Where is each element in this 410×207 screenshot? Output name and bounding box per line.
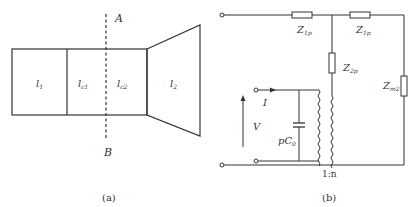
impedance-z2p [329,53,335,73]
figure-a [12,14,200,138]
horn-section [147,25,200,136]
transformer-primary-coil [318,90,320,166]
label-current: I [262,97,268,108]
impedance-z1p-right [350,12,370,18]
label-z1p-right: Z1p [355,24,371,37]
label-capacitor: pC0 [278,135,296,147]
cut-label-b: B [103,146,112,159]
label-lc2: lc2 [117,78,128,90]
label-transformer-ratio: 1:n [322,169,337,179]
label-z2p: Z2p [342,62,358,75]
transformer-secondary-coil [331,96,333,168]
label-l1: l1 [36,78,43,90]
caption-a: (a) [102,192,116,203]
terminal-bottom-left [220,163,224,167]
caption-b: (b) [322,192,336,203]
diagram-canvas: l1 lc1 lc2 l2 A B (a) [0,0,410,207]
terminal-input-top [254,88,258,92]
terminal-input-bottom [254,159,258,163]
current-arrow-icon [270,88,276,93]
label-l2: l2 [170,78,177,90]
label-lc1: lc1 [78,78,88,90]
cut-label-a: A [114,12,123,25]
label-voltage: V [253,121,262,132]
label-zm2: Zm2 [382,80,400,92]
impedance-z1p-left [292,12,312,18]
terminal-top-left [220,13,224,17]
voltage-arrow-icon [241,95,246,101]
impedance-zm2 [401,76,407,96]
figure-b [220,12,407,168]
label-z1p-left: Z1p [296,24,312,37]
